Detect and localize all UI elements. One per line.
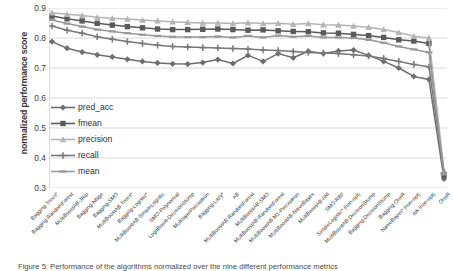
data-point	[49, 39, 55, 45]
data-point	[125, 24, 130, 29]
data-point	[411, 61, 418, 68]
legend-swatch-cross-icon	[50, 150, 76, 161]
data-point	[321, 30, 326, 35]
legend-label: pred_acc	[78, 102, 113, 112]
data-point	[395, 58, 402, 65]
data-point	[305, 49, 312, 56]
data-point	[79, 18, 84, 23]
data-point	[215, 26, 220, 31]
legend-swatch-triangle-icon	[50, 134, 76, 145]
data-point	[199, 44, 206, 51]
data-point	[245, 46, 252, 53]
data-point	[49, 23, 55, 30]
data-point	[64, 27, 71, 34]
data-point	[275, 28, 280, 33]
data-point	[215, 45, 222, 52]
x-tick-label: AB	[231, 191, 240, 200]
data-point	[139, 58, 145, 64]
data-point	[124, 38, 131, 45]
data-point	[350, 52, 357, 59]
data-point	[336, 31, 341, 36]
x-tick-label: OneR	[437, 191, 451, 205]
data-point	[290, 55, 296, 61]
data-point	[215, 57, 221, 63]
legend-swatch-line-icon	[50, 166, 76, 177]
data-point	[366, 33, 371, 38]
legend-item[interactable]: fmean	[50, 115, 113, 131]
data-point	[396, 65, 402, 71]
legend-label: precision	[78, 134, 112, 144]
legend-item[interactable]: recall	[50, 147, 113, 163]
data-point	[245, 52, 251, 58]
legend-label: recall	[78, 150, 99, 160]
legend-swatch-diamond-icon	[50, 102, 76, 113]
data-point	[306, 29, 311, 34]
data-point	[365, 53, 372, 60]
legend-swatch-square-icon	[50, 118, 76, 129]
data-point	[109, 36, 116, 43]
data-point	[200, 60, 206, 66]
data-point	[94, 52, 100, 58]
data-point	[64, 45, 70, 51]
data-point	[79, 49, 85, 55]
data-point	[60, 104, 66, 110]
data-point	[411, 73, 417, 79]
data-point	[184, 44, 191, 51]
chart-legend: pred_accfmeanprecisionrecallmean	[50, 99, 113, 179]
data-point	[95, 21, 100, 26]
data-point	[139, 40, 146, 47]
data-point	[260, 47, 267, 54]
data-point	[124, 56, 130, 62]
data-point	[230, 60, 236, 66]
legend-item[interactable]: precision	[50, 131, 113, 147]
chart-figure: 0.30.40.50.60.70.80.9 normalized perform…	[0, 0, 453, 271]
data-point	[154, 42, 161, 49]
data-point	[94, 34, 101, 41]
data-point	[60, 120, 65, 125]
figure-caption: Figure 5: Performance of the algorithms …	[18, 262, 448, 271]
legend-item[interactable]: pred_acc	[50, 99, 113, 115]
data-point	[291, 29, 296, 34]
data-point	[381, 35, 386, 40]
data-point	[170, 27, 175, 32]
data-point	[110, 22, 115, 27]
data-point	[411, 38, 416, 43]
legend-label: mean	[78, 166, 100, 176]
data-point	[320, 50, 327, 57]
legend-item[interactable]: mean	[50, 163, 113, 179]
data-point	[79, 30, 86, 37]
legend-label: fmean	[78, 118, 102, 128]
data-point	[154, 60, 160, 66]
data-point	[109, 54, 115, 60]
data-point	[140, 25, 145, 30]
data-point	[155, 26, 160, 31]
data-point	[351, 32, 356, 37]
data-point	[60, 152, 67, 159]
data-point	[170, 61, 176, 67]
data-point	[245, 28, 250, 33]
data-point	[230, 45, 237, 52]
data-point	[185, 27, 190, 32]
data-point	[260, 58, 266, 64]
y-axis-title: normalized performance score	[19, 3, 29, 183]
data-point	[169, 43, 176, 50]
data-point	[185, 61, 191, 67]
x-axis-ticks: Bagging-Trees*Bagging-RandomForestMultiB…	[0, 189, 453, 271]
data-point	[200, 27, 205, 32]
data-point	[396, 37, 401, 42]
data-point	[230, 27, 235, 32]
data-point	[290, 48, 297, 55]
data-point	[260, 27, 265, 32]
